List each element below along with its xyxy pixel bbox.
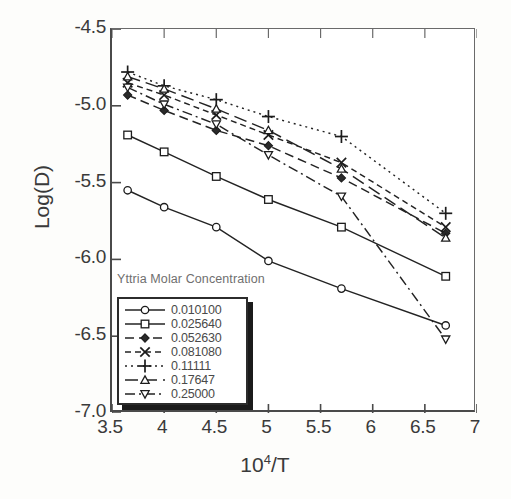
legend-item: 0.010100 xyxy=(123,303,246,317)
data-point-diamond xyxy=(264,142,272,150)
data-point-triangle-down xyxy=(442,336,450,343)
data-point-circle xyxy=(442,322,449,329)
data-point-square xyxy=(442,272,450,280)
series-line-0.052630 xyxy=(128,95,446,233)
y-axis-title: Log(D) xyxy=(30,137,54,257)
x-axis-tick-labels: 3.544.555.566.57 xyxy=(0,416,511,450)
y-tick-label: -5.0 xyxy=(48,93,106,115)
x-tick-label: 3.5 xyxy=(85,416,135,438)
data-point-square xyxy=(160,148,168,156)
legend-item-label: 0.081080 xyxy=(171,345,222,359)
legend-item: 0.17647 xyxy=(123,373,246,387)
legend-item-label: 0.25000 xyxy=(171,387,215,401)
legend-item: 0.11111 xyxy=(123,359,246,373)
series-line-0.081080 xyxy=(128,83,446,227)
data-point-diamond xyxy=(141,334,149,342)
legend: 0.0101000.0256400.0526300.0810800.111110… xyxy=(117,297,248,405)
y-tick-label: -4.5 xyxy=(48,16,106,38)
legend-item: 0.081080 xyxy=(123,345,246,359)
legend-item-label: 0.010100 xyxy=(171,303,222,317)
data-point-square xyxy=(338,223,346,231)
legend-item-label: 0.11111 xyxy=(171,359,211,373)
legend-item-label: 0.17647 xyxy=(171,373,215,387)
data-point-triangle-down xyxy=(212,121,220,128)
data-point-triangle-down xyxy=(264,152,272,159)
y-tick-label: -5.5 xyxy=(48,170,106,192)
data-point-plus xyxy=(262,110,275,123)
x-axis-title-exponent: 4 xyxy=(264,452,271,467)
data-point-square xyxy=(141,320,149,328)
legend-item: 0.25000 xyxy=(123,387,246,401)
data-point-circle xyxy=(213,223,220,230)
legend-marker-triangle-up xyxy=(123,373,167,387)
data-point-circle xyxy=(124,187,131,194)
data-point-plus xyxy=(139,360,152,373)
x-axis-title: 104/T xyxy=(205,452,325,477)
legend-item-label: 0.025640 xyxy=(171,317,222,331)
legend-marker-triangle-down xyxy=(123,387,167,401)
x-axis-title-tail: /T xyxy=(271,453,290,476)
legend-marker-plus xyxy=(123,359,167,373)
x-tick-label: 6 xyxy=(346,416,396,438)
y-tick-label: -6.0 xyxy=(48,246,106,268)
data-point-circle xyxy=(160,203,167,210)
x-tick-label: 4.5 xyxy=(189,416,239,438)
y-tick-label: -6.5 xyxy=(48,323,106,345)
data-point-circle xyxy=(141,306,148,313)
data-point-square xyxy=(212,173,220,181)
legend-title: Yttria Molar Concentration xyxy=(117,272,265,286)
x-tick-label: 4 xyxy=(137,416,187,438)
data-point-plus xyxy=(439,207,452,220)
data-point-triangle-up xyxy=(124,73,132,80)
legend-item-label: 0.052630 xyxy=(171,331,222,345)
data-point-circle xyxy=(338,285,345,292)
data-point-triangle-down xyxy=(124,84,132,91)
data-point-triangle-up xyxy=(264,126,272,133)
legend-marker-cross-x xyxy=(123,345,167,359)
legend-item: 0.025640 xyxy=(123,317,246,331)
data-point-circle xyxy=(265,257,272,264)
legend-marker-diamond xyxy=(123,331,167,345)
x-tick-label: 5.5 xyxy=(294,416,344,438)
data-point-diamond xyxy=(337,174,345,182)
x-tick-label: 7 xyxy=(450,416,500,438)
legend-marker-square xyxy=(123,317,167,331)
x-axis-title-base: 10 xyxy=(240,453,263,476)
data-point-plus xyxy=(335,130,348,143)
x-tick-label: 5 xyxy=(241,416,291,438)
data-point-square xyxy=(124,131,132,139)
data-point-square xyxy=(265,196,273,204)
series-line-0.025640 xyxy=(128,135,446,276)
legend-item: 0.052630 xyxy=(123,331,246,345)
figure-chart-log-d-vs-inverse-temperature: -4.5-5.0-5.5-6.0-6.5-7.0 3.544.555.566.5… xyxy=(0,0,511,499)
data-point-triangle-up xyxy=(212,105,220,112)
x-tick-label: 6.5 xyxy=(398,416,448,438)
legend-marker-circle xyxy=(123,303,167,317)
